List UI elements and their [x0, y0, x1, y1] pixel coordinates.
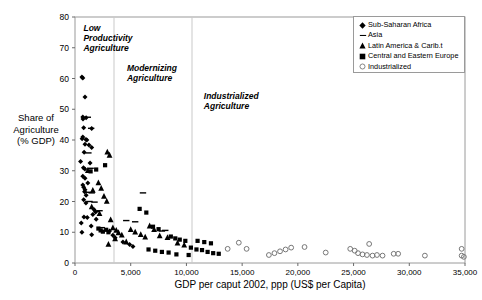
series-triangle: [85, 149, 187, 248]
data-point: [200, 248, 204, 252]
data-point: [211, 251, 215, 255]
data-point: [101, 193, 107, 199]
data-point: [79, 230, 84, 235]
data-point: [89, 232, 94, 237]
data-point: [352, 248, 357, 253]
zone-annotation: Modernizing Agriculture: [127, 63, 177, 83]
data-point: [91, 201, 97, 202]
y-tick-label: 0: [47, 259, 69, 268]
legend-item[interactable]: Industrialized: [357, 62, 464, 72]
data-point: [106, 230, 110, 234]
series-diamond: [78, 74, 135, 248]
triangle-marker-icon: [357, 42, 368, 49]
data-point: [167, 250, 171, 254]
x-tick-label: 5,000: [107, 269, 155, 277]
data-point: [106, 241, 112, 247]
data-point: [225, 246, 230, 251]
data-point: [81, 125, 86, 130]
data-point: [217, 252, 221, 256]
data-point: [144, 210, 148, 214]
data-point: [189, 246, 193, 250]
data-point: [151, 225, 155, 229]
y-tick-label: 40: [47, 136, 69, 145]
y-tick-label: 30: [47, 167, 69, 176]
data-point: [94, 167, 98, 171]
legend-item[interactable]: Asia: [357, 30, 464, 40]
data-point: [94, 217, 99, 222]
legend: Sub-Saharan Africa Asia Latin America & …: [353, 16, 465, 73]
data-point: [302, 245, 307, 250]
diamond-marker-icon: [357, 22, 368, 29]
data-point: [96, 180, 102, 186]
data-point: [79, 221, 84, 226]
data-point: [183, 239, 187, 243]
data-point: [187, 253, 191, 257]
x-axis-title: GDP per caput 2002, ppp (US$ per Capita): [75, 279, 465, 290]
zone-annotation: Low Productivity Agriculture: [83, 23, 132, 53]
data-point: [323, 250, 328, 255]
x-tick-label: 0: [51, 269, 99, 277]
data-point: [98, 185, 104, 191]
data-point: [202, 240, 206, 244]
data-point: [83, 94, 88, 99]
data-point: [174, 252, 178, 256]
data-point: [160, 250, 164, 254]
data-point: [146, 247, 150, 251]
zone-annotation: Industrialized Agriculture: [204, 91, 259, 111]
data-point: [88, 128, 94, 129]
data-point: [85, 215, 90, 220]
data-point: [128, 226, 134, 232]
x-tick-label: 15,000: [218, 269, 266, 277]
data-point: [89, 204, 95, 210]
data-point: [89, 169, 93, 173]
data-point: [206, 250, 210, 254]
data-point: [278, 249, 283, 254]
data-point: [367, 242, 372, 247]
square-marker-icon: [357, 53, 368, 60]
data-point: [132, 221, 138, 222]
data-point: [169, 234, 173, 238]
legend-label: Asia: [368, 30, 382, 40]
y-tick-label: 20: [47, 198, 69, 207]
data-point: [108, 216, 114, 222]
data-point: [194, 247, 198, 251]
data-point: [153, 249, 157, 253]
x-tick-label: 20,000: [274, 269, 322, 277]
legend-label: Industrialized: [368, 62, 411, 72]
series-circle-open: [225, 240, 466, 259]
legend-item[interactable]: Central and Eastern Europe: [357, 51, 464, 61]
data-point: [422, 253, 427, 258]
data-point: [380, 253, 385, 258]
data-point: [138, 207, 142, 211]
data-point: [209, 241, 213, 245]
data-point: [156, 227, 160, 231]
y-tick-label: 50: [47, 105, 69, 114]
data-point: [90, 187, 96, 193]
dash-marker-icon: [357, 32, 368, 39]
x-tick-label: 30,000: [385, 269, 433, 277]
y-tick-label: 10: [47, 228, 69, 237]
data-point: [173, 236, 177, 240]
x-tick-label: 10,000: [162, 269, 210, 277]
x-tick-label: 35,000: [441, 269, 482, 277]
data-point: [78, 159, 83, 164]
data-point: [244, 246, 249, 251]
data-point: [138, 231, 144, 237]
x-tick-label: 25,000: [330, 269, 378, 277]
data-point: [195, 239, 199, 243]
legend-item[interactable]: Latin America & Carib.t: [357, 41, 464, 51]
data-point: [178, 238, 182, 242]
data-point: [459, 246, 464, 251]
data-point: [289, 245, 294, 250]
legend-label: Central and Eastern Europe: [368, 51, 458, 61]
legend-label: Latin America & Carib.t: [368, 41, 443, 51]
data-point: [157, 232, 163, 238]
data-point: [110, 224, 116, 230]
y-tick-label: 80: [47, 13, 69, 22]
legend-item[interactable]: Sub-Saharan Africa: [357, 20, 464, 30]
data-point: [123, 220, 129, 221]
data-point: [272, 251, 277, 256]
data-point: [88, 161, 93, 166]
data-point: [283, 247, 288, 252]
